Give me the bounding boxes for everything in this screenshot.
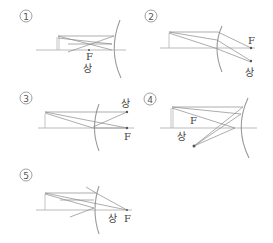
option-3-diagram: 3 상 F — [20, 92, 134, 151]
option-3-number: 3 — [23, 94, 29, 104]
focus-label: F — [124, 131, 131, 142]
image-point — [193, 145, 196, 148]
image-label: 상 — [177, 131, 186, 142]
focus-label: F — [124, 213, 131, 224]
focus-label: F — [248, 35, 255, 46]
focus-point — [126, 127, 128, 129]
option-5-diagram: 5 상 F — [20, 169, 132, 234]
option-2-number: 2 — [148, 12, 154, 22]
option-1-number: 1 — [23, 12, 29, 22]
option-1-diagram: 1 F 상 — [20, 10, 126, 78]
image-label: 상 — [108, 213, 117, 224]
image-label: 상 — [245, 67, 254, 78]
image-point — [126, 111, 128, 113]
concave-mirror — [114, 20, 121, 78]
option-4-diagram: 4 F 상 — [144, 93, 257, 158]
option-5-number: 5 — [23, 171, 29, 181]
focus-point — [126, 209, 128, 211]
image-point — [250, 60, 252, 62]
focus-label: F — [190, 115, 197, 126]
focus-point — [250, 47, 252, 49]
option-2-diagram: 2 F 상 — [145, 10, 255, 78]
image-label: 상 — [121, 98, 130, 109]
option-4-number: 4 — [147, 95, 153, 105]
mirror-ray-diagrams: 1 F 상 2 F 상 3 — [0, 0, 273, 243]
convex-mirror — [95, 104, 100, 151]
focus-label: F — [86, 51, 93, 62]
image-label: 상 — [83, 63, 92, 74]
